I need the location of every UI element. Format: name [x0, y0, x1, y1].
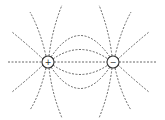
- dipole-field-diagram: + −: [0, 0, 165, 120]
- positive-charge: +: [42, 56, 54, 68]
- field-line: [118, 65, 149, 92]
- field-line: [51, 36, 110, 58]
- field-line: [49, 5, 62, 56]
- field-line: [99, 5, 112, 56]
- negative-charge: −: [107, 56, 119, 68]
- field-line: [51, 67, 110, 89]
- plus-symbol: +: [45, 58, 52, 67]
- field-lines: [8, 5, 157, 118]
- field-line: [53, 50, 108, 60]
- field-line: [49, 68, 62, 118]
- field-line: [99, 68, 112, 118]
- field-line: [53, 65, 108, 75]
- field-line: [12, 32, 43, 59]
- field-line: [118, 32, 149, 59]
- minus-symbol: −: [110, 58, 117, 67]
- field-line: [12, 65, 43, 92]
